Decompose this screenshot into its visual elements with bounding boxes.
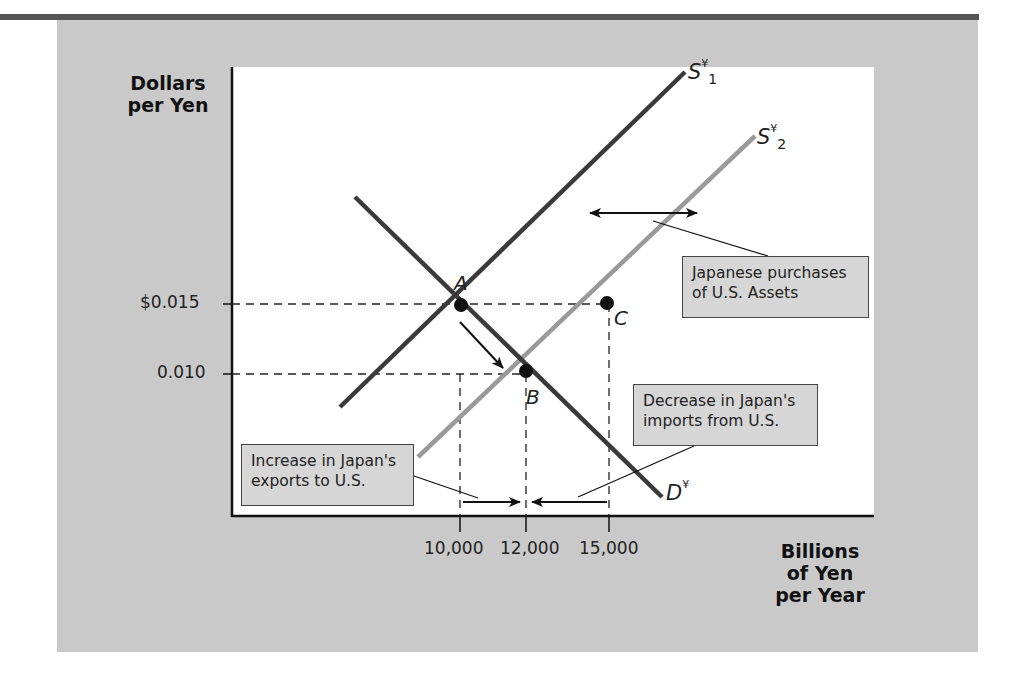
point-a-marker — [454, 298, 468, 312]
point-c-marker — [600, 296, 614, 310]
point-a-label: A — [454, 271, 468, 295]
y-tick-label-0015: $0.015 — [140, 292, 199, 312]
callout-exports-line1: Increase in Japan's — [251, 451, 404, 471]
callout-imports-line2: imports from U.S. — [643, 411, 808, 431]
point-b-marker — [519, 364, 533, 378]
x-tick-label-12000: 12,000 — [500, 538, 559, 558]
x-axis-title-line2: of Yen — [770, 562, 870, 584]
point-b-label: B — [526, 385, 540, 409]
callout-imports: Decrease in Japan's imports from U.S. — [633, 384, 818, 446]
s2-sub: 2 — [777, 136, 786, 152]
d-yen-sup: ¥ — [682, 478, 689, 491]
y-axis-title-line2: per Yen — [118, 94, 218, 116]
point-c-label: C — [614, 306, 628, 330]
s1-letter: S — [688, 60, 701, 84]
x-tick-label-10000: 10,000 — [424, 538, 483, 558]
d-letter: D — [666, 481, 682, 505]
s1-curve-label: S¥1 — [688, 60, 717, 87]
y-tick-label-0010: 0.010 — [157, 362, 206, 382]
y-axis-title: Dollars per Yen — [118, 72, 218, 116]
callout-assets-line2: of U.S. Assets — [692, 283, 859, 303]
x-axis-title-line3: per Year — [770, 584, 870, 606]
callout-assets: Japanese purchases of U.S. Assets — [682, 256, 869, 318]
s2-yen-sup: ¥ — [770, 122, 777, 135]
s2-letter: S — [757, 125, 770, 149]
x-tick-label-15000: 15,000 — [579, 538, 638, 558]
callout-imports-line1: Decrease in Japan's — [643, 391, 808, 411]
callout-exports: Increase in Japan's exports to U.S. — [241, 444, 414, 506]
d-curve-label: D¥ — [666, 481, 689, 505]
x-axis-title: Billions of Yen per Year — [770, 540, 870, 606]
s2-curve-label: S¥2 — [757, 125, 786, 152]
s1-sub: 1 — [708, 71, 717, 87]
y-axis-title-line1: Dollars — [118, 72, 218, 94]
s1-yen-sup: ¥ — [701, 57, 708, 70]
x-axis-title-line1: Billions — [770, 540, 870, 562]
callout-exports-line2: exports to U.S. — [251, 471, 404, 491]
callout-assets-line1: Japanese purchases — [692, 263, 859, 283]
